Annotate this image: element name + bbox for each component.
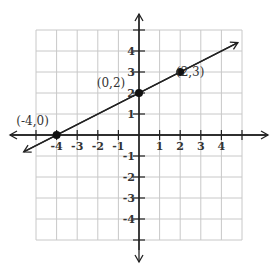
data-point bbox=[135, 89, 143, 97]
x-tick-label: 2 bbox=[176, 140, 184, 153]
coordinate-plane: -4-3-2-112344321-1-2-3-4 (-4,0)(0,2)(2,3… bbox=[0, 0, 279, 270]
x-tick-label: -4 bbox=[50, 140, 63, 153]
y-tick-label: -4 bbox=[123, 213, 136, 226]
y-tick-label: 1 bbox=[127, 108, 135, 121]
point-label: (-4,0) bbox=[16, 114, 49, 128]
data-points: (-4,0)(0,2)(2,3) bbox=[16, 65, 204, 139]
x-tick-label: 1 bbox=[156, 140, 164, 153]
point-label: (2,3) bbox=[176, 65, 204, 79]
y-tick-label: -3 bbox=[123, 192, 135, 205]
x-tick-label: -2 bbox=[92, 140, 104, 153]
x-tick-label: -3 bbox=[71, 140, 83, 153]
y-tick-label: 3 bbox=[127, 66, 135, 79]
x-tick-label: 3 bbox=[197, 140, 205, 153]
y-tick-label: -1 bbox=[123, 150, 135, 163]
y-tick-label: 4 bbox=[127, 45, 135, 58]
point-label: (0,2) bbox=[97, 76, 125, 90]
data-point bbox=[53, 131, 61, 139]
x-tick-label: 4 bbox=[218, 140, 226, 153]
y-tick-label: -2 bbox=[123, 171, 135, 184]
